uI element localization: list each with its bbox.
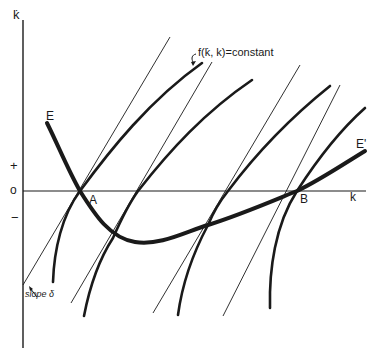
iso-curves (53, 63, 365, 316)
constant-pointer-arrow (192, 54, 196, 62)
iso-curve-1 (53, 63, 202, 282)
iso-curve-2 (84, 80, 252, 316)
iso-curve-4 (270, 108, 365, 308)
label-E: E (46, 109, 54, 123)
y-axis-label: k̇ (13, 7, 20, 22)
label-E-prime: E' (356, 137, 366, 151)
phase-diagram: k̇ k + o − E E' A B f(k̇, k)=constant sl… (0, 0, 376, 360)
x-axis-label: k (350, 190, 357, 204)
tangent-line-1 (23, 37, 170, 285)
label-constant: f(k̇, k)=constant (198, 46, 274, 58)
tick-zero: o (10, 183, 17, 197)
label-B: B (300, 192, 308, 206)
label-A: A (89, 193, 97, 207)
label-slope: slope δ (25, 289, 55, 299)
constant-arrowhead (191, 61, 196, 66)
tangent-line-4 (223, 85, 340, 316)
tangent-line-3 (153, 65, 300, 313)
tick-plus: + (10, 158, 18, 173)
tick-minus: − (11, 210, 19, 225)
e-curve (47, 123, 365, 243)
